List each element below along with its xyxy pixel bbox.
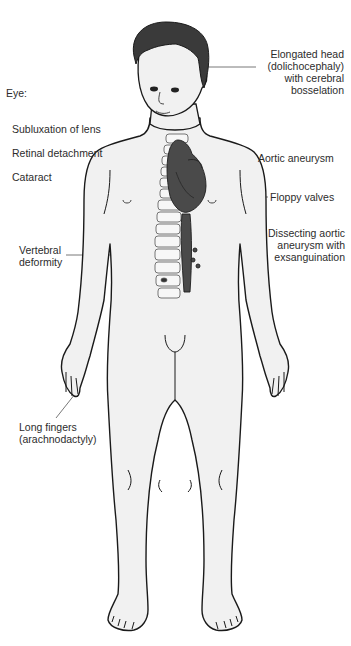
blood-drop xyxy=(193,248,197,252)
label-dissecting-aortic-aneurysm: Dissecting aortic aneurysm with exsangui… xyxy=(268,227,345,263)
label-long-fingers: Long fingers (arachnodactyly) xyxy=(19,421,97,445)
label-vertebral-deformity: Vertebral deformity xyxy=(19,244,62,268)
blood-drop xyxy=(191,258,195,262)
label-elongated-head: Elongated head (dolichocephaly) with cer… xyxy=(268,48,344,96)
label-aortic-aneurysm: Aortic aneurysm xyxy=(258,152,334,164)
label-eye-item: Cataract xyxy=(12,171,102,183)
head xyxy=(133,22,208,130)
left-eye xyxy=(150,87,158,92)
leader-line-fingers xyxy=(56,394,75,418)
label-eye: Eye: Subluxation of lens Retinal detachm… xyxy=(6,75,102,207)
blood-drop xyxy=(196,264,200,268)
label-eye-item: Subluxation of lens xyxy=(12,123,102,135)
label-floppy-valves: Floppy valves xyxy=(270,191,334,203)
right-eye xyxy=(171,88,179,93)
label-eye-item: Retinal detachment xyxy=(12,147,102,159)
label-eye-heading: Eye: xyxy=(6,87,102,99)
